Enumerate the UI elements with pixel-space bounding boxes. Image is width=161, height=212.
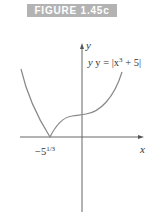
equation-lhs: y = |x — [95, 57, 119, 68]
equation-rhs: + 5| — [123, 57, 142, 68]
y-axis-arrow-icon — [80, 43, 84, 49]
equation-label: y y = |x3 + 5| — [88, 57, 141, 68]
cusp-exponent: 1/3 — [46, 145, 55, 153]
cusp-tick-label: −51/3 — [35, 146, 55, 157]
function-curve — [21, 69, 122, 137]
function-plot — [0, 0, 161, 212]
x-axis-label: x — [140, 144, 145, 155]
x-axis-arrow-icon — [138, 135, 144, 139]
y-axis-label: y — [86, 40, 91, 51]
cusp-base: −5 — [35, 146, 46, 157]
